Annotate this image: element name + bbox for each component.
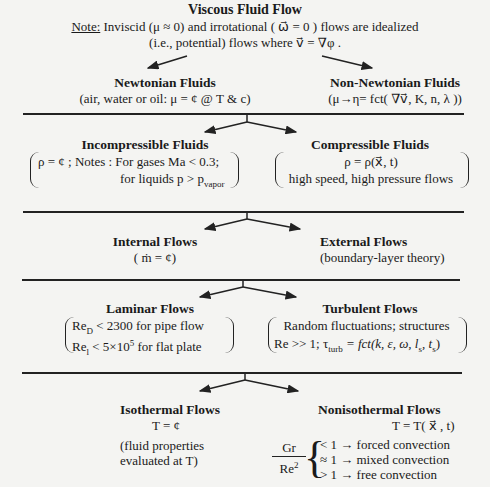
isothermal-eq: T = ¢ [152,418,180,433]
laminar-line2: Rel < 5×105 for flat plate [72,336,202,360]
external-desc: (boundary-layer theory) [320,250,445,265]
isothermal-desc2: evaluated at T) [120,453,198,468]
isothermal-title: Isothermal Flows [120,402,220,418]
internal-desc: ( ṁ = ¢) [100,250,210,265]
case-free: > 1 → free convection [320,467,437,482]
grashof-numerator: Gr [272,440,306,455]
newtonian-title: Newtonian Fluids [60,75,270,91]
case-forced: < 1 → forced convection [320,437,450,452]
incompressible-title: Incompressible Fluids [60,137,230,153]
external-title: External Flows [320,234,407,250]
divider-1 [23,113,464,115]
fraction-bar [272,456,306,457]
internal-title: Internal Flows [100,234,210,250]
divider-3 [22,279,460,281]
turbulent-line1: Random fluctuations; structures [268,318,465,333]
divider-4 [22,372,462,374]
non-newtonian-title: Non-Newtonian Fluids [300,75,490,91]
compressible-line2: high speed, high pressure flows [275,171,467,186]
turbulent-line2: Re >> 1; τturb = fct(k, ε, ω, ls, ts) [274,336,440,357]
reynolds-denominator: Re2 [272,458,306,476]
nonisothermal-eq: T = T( x⃗ , t) [392,418,455,433]
isothermal-desc1: (fluid properties [120,438,204,453]
turbulent-title: Turbulent Flows [280,301,460,317]
compressible-line1: ρ = ρ(x⃗, t) [275,154,467,169]
laminar-title: Laminar Flows [90,301,210,317]
incompressible-line1: ρ = ¢ ; Notes : For gases Ma < 0.3; [38,154,219,169]
nonisothermal-title: Nonisothermal Flows [318,402,441,418]
newtonian-desc: (air, water or oil: μ = ¢ @ T & c) [40,91,290,106]
compressible-title: Compressible Fluids [270,137,470,153]
divider-2 [23,211,464,213]
non-newtonian-desc: (μ→η= fct( ∇v⃗, K, n, λ )) [300,91,490,106]
incompressible-line2: for liquids p > pvapor [120,171,224,192]
case-mixed: ≈ 1 → mixed convection [320,452,449,467]
